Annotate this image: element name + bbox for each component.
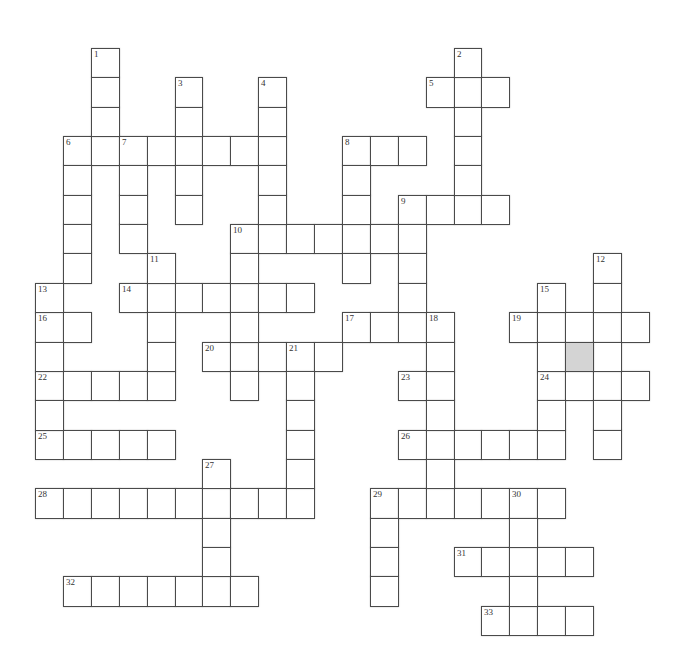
letter-input[interactable] [176, 78, 202, 107]
letter-input[interactable] [371, 489, 398, 518]
grid-cell[interactable] [258, 195, 287, 225]
grid-cell[interactable] [63, 488, 92, 519]
letter-input[interactable] [315, 225, 342, 253]
grid-cell[interactable] [370, 518, 399, 548]
letter-input[interactable] [482, 548, 509, 576]
letter-input[interactable] [399, 489, 426, 518]
letter-input[interactable] [371, 548, 398, 576]
grid-cell[interactable] [230, 253, 259, 284]
grid-cell[interactable] [509, 606, 538, 636]
grid-cell[interactable] [230, 283, 259, 313]
letter-input[interactable] [538, 343, 565, 371]
grid-cell[interactable] [537, 606, 566, 636]
grid-cell[interactable] [426, 371, 455, 401]
grid-cell[interactable] [342, 253, 371, 284]
letter-input[interactable] [371, 137, 398, 165]
grid-cell[interactable] [454, 488, 482, 519]
grid-cell[interactable] [454, 430, 482, 460]
grid-cell[interactable] [175, 107, 203, 137]
grid-cell[interactable]: 12 [593, 253, 622, 284]
letter-input[interactable] [455, 78, 481, 107]
grid-cell[interactable] [35, 400, 64, 431]
grid-cell[interactable] [258, 342, 287, 372]
grid-cell[interactable] [147, 136, 176, 166]
letter-input[interactable] [64, 313, 91, 342]
letter-input[interactable] [287, 431, 314, 459]
letter-input[interactable] [482, 196, 509, 224]
letter-input[interactable] [343, 254, 370, 283]
letter-input[interactable] [64, 431, 91, 459]
grid-cell[interactable] [230, 371, 259, 401]
letter-input[interactable] [64, 225, 91, 253]
grid-cell[interactable] [398, 283, 427, 313]
grid-cell[interactable] [63, 371, 92, 401]
letter-input[interactable] [148, 254, 175, 283]
grid-cell[interactable]: 11 [147, 253, 176, 284]
letter-input[interactable] [455, 166, 481, 195]
letter-input[interactable] [176, 284, 202, 312]
letter-input[interactable] [203, 460, 230, 488]
letter-input[interactable] [36, 401, 63, 430]
grid-cell[interactable] [565, 371, 594, 401]
grid-cell[interactable] [91, 430, 120, 460]
letter-input[interactable] [510, 489, 537, 518]
letter-input[interactable] [259, 489, 286, 518]
grid-cell[interactable] [63, 430, 92, 460]
grid-cell[interactable]: 5 [426, 77, 455, 108]
grid-cell[interactable] [202, 488, 231, 519]
grid-cell[interactable] [230, 136, 259, 166]
grid-cell[interactable] [91, 136, 120, 166]
letter-input[interactable] [176, 489, 202, 518]
grid-cell[interactable]: 3 [175, 77, 203, 108]
letter-input[interactable] [510, 607, 537, 635]
grid-cell[interactable] [35, 342, 64, 372]
letter-input[interactable] [203, 577, 230, 606]
letter-input[interactable] [231, 372, 258, 400]
letter-input[interactable] [176, 196, 202, 224]
letter-input[interactable] [510, 313, 537, 342]
grid-cell[interactable] [537, 547, 566, 577]
grid-cell[interactable] [147, 312, 176, 343]
grid-cell[interactable] [286, 488, 315, 519]
grid-cell[interactable] [426, 488, 455, 519]
grid-cell[interactable] [147, 371, 176, 401]
letter-input[interactable] [594, 254, 621, 283]
letter-input[interactable] [148, 489, 175, 518]
letter-input[interactable] [343, 225, 370, 253]
grid-cell[interactable] [91, 107, 120, 137]
grid-cell[interactable] [230, 342, 259, 372]
grid-cell[interactable] [91, 77, 120, 108]
letter-input[interactable] [399, 284, 426, 312]
grid-cell[interactable] [314, 224, 343, 254]
grid-cell[interactable] [509, 576, 538, 607]
grid-cell[interactable]: 32 [63, 576, 92, 607]
letter-input[interactable] [538, 284, 565, 312]
grid-cell[interactable] [119, 371, 148, 401]
letter-input[interactable] [92, 431, 119, 459]
letter-input[interactable] [148, 137, 175, 165]
letter-input[interactable] [148, 372, 175, 400]
letter-input[interactable] [594, 401, 621, 430]
letter-input[interactable] [371, 313, 398, 342]
grid-cell[interactable] [286, 430, 315, 460]
letter-input[interactable] [538, 607, 565, 635]
letter-input[interactable] [371, 577, 398, 606]
grid-cell[interactable] [593, 312, 622, 343]
letter-input[interactable] [120, 166, 147, 195]
letter-input[interactable] [399, 431, 426, 459]
letter-input[interactable] [455, 108, 481, 136]
letter-input[interactable] [455, 489, 481, 518]
letter-input[interactable] [231, 225, 258, 253]
grid-cell[interactable] [593, 371, 622, 401]
grid-cell[interactable] [342, 165, 371, 196]
grid-cell[interactable] [426, 459, 455, 489]
grid-cell[interactable] [370, 224, 399, 254]
grid-cell[interactable] [63, 165, 92, 196]
letter-input[interactable] [231, 343, 258, 371]
grid-cell[interactable] [370, 576, 399, 607]
letter-input[interactable] [259, 137, 286, 165]
letter-input[interactable] [92, 372, 119, 400]
letter-input[interactable] [148, 313, 175, 342]
letter-input[interactable] [482, 431, 509, 459]
grid-cell[interactable] [593, 283, 622, 313]
